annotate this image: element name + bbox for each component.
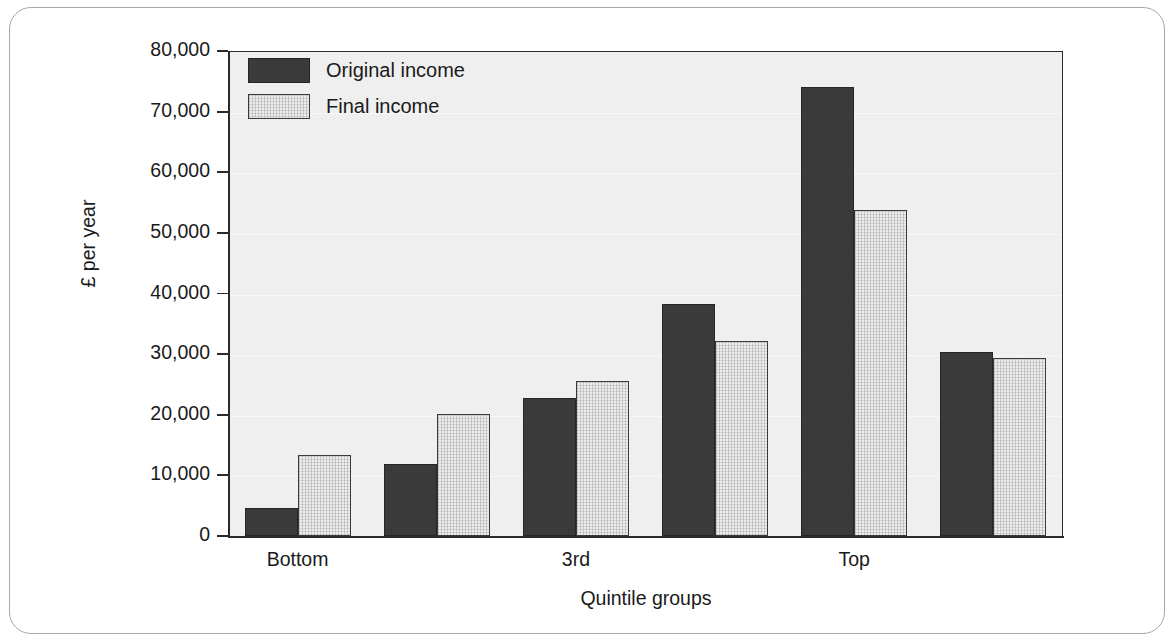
y-axis-line [228,51,230,537]
bar-original-income [245,508,298,536]
x-tick-label: Bottom [208,548,388,571]
bar-final-income [715,341,768,536]
legend-label-final-income: Final income [326,95,439,118]
legend-swatch-original-income-icon [248,58,310,83]
bar-final-income [993,358,1046,536]
y-tick-mark [217,50,228,52]
legend-label-original-income: Original income [326,59,465,82]
bar-original-income [940,352,993,536]
bar-original-income [523,398,576,536]
bar-final-income [576,381,629,536]
bar-final-income [437,414,490,536]
bar-final-income [298,455,351,536]
x-tick-label: 3rd [486,548,666,571]
y-tick-label: 10,000 [60,462,210,485]
legend-item-final: Final income [248,88,465,124]
chart-figure: 80,00070,00060,00050,00040,00030,00020,0… [0,0,1175,643]
bar-final-income [854,210,907,536]
bar-original-income [662,304,715,536]
x-axis-line [228,536,1064,538]
bar-original-income [801,87,854,536]
y-tick-mark [217,171,228,173]
x-tick-label: Top [764,548,944,571]
y-tick-mark [217,414,228,416]
y-tick-mark [217,535,228,537]
y-tick-label: 70,000 [60,99,210,122]
legend-swatch-final-income-icon [248,94,310,119]
y-axis-title: £ per year [77,154,100,334]
y-tick-label: 30,000 [60,341,210,364]
y-tick-label: 0 [60,523,210,546]
bar-original-income [384,464,437,536]
legend-item-original: Original income [248,52,465,88]
y-tick-label: 80,000 [60,38,210,61]
chart-legend: Original income Final income [248,52,465,124]
x-axis-title: Quintile groups [228,587,1064,610]
y-tick-mark [217,293,228,295]
y-tick-mark [217,474,228,476]
y-tick-mark [217,111,228,113]
y-tick-mark [217,232,228,234]
y-tick-mark [217,353,228,355]
y-tick-label: 20,000 [60,402,210,425]
